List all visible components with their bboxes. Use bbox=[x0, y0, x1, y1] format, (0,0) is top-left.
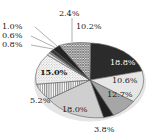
slice-label-18-8: 18.8% bbox=[110, 58, 136, 66]
slice-label-1-0: 1.0% bbox=[2, 22, 22, 30]
slice-label-3-8: 3.8% bbox=[94, 125, 114, 133]
slice-label-0-6: 0.6% bbox=[2, 31, 22, 39]
slice-label-12-7: 12.7% bbox=[107, 90, 133, 98]
slice-label-10-6: 10.6% bbox=[112, 76, 138, 84]
slice-label-0-8: 0.8% bbox=[2, 40, 22, 48]
leader-line-0-8 bbox=[31, 45, 53, 49]
slice-label-18-0: 18.0% bbox=[62, 105, 88, 113]
slice-label-2-4: 2.4% bbox=[59, 9, 79, 17]
slice-label-10-2: 10.2% bbox=[76, 22, 102, 30]
slice-label-5-2: 5.2% bbox=[30, 96, 50, 104]
slice-label-15-0: 15.0% bbox=[40, 68, 67, 76]
pie-chart: 1.0% 0.6% 0.8% 2.4% 10.2% 18.8% 10.6% 12… bbox=[0, 0, 157, 140]
